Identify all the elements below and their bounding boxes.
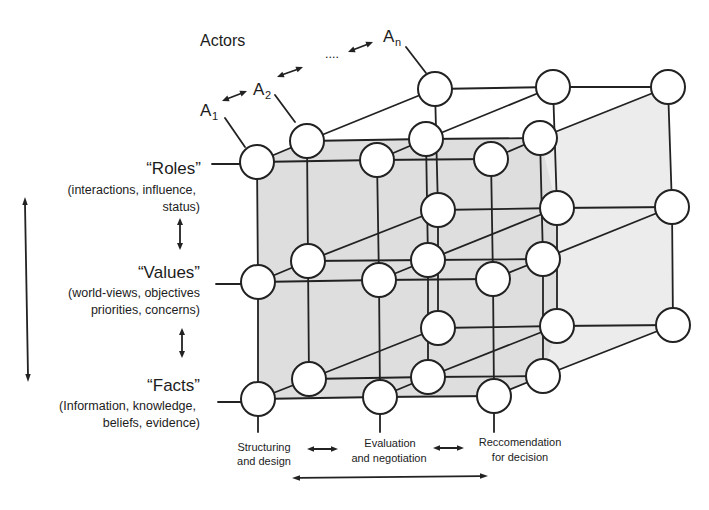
node-a1-values-structuring bbox=[241, 265, 275, 299]
arrow-ellipsis-an bbox=[348, 42, 373, 52]
node-a2-facts-structuring bbox=[292, 362, 326, 396]
node-an-values-structuring bbox=[421, 193, 455, 227]
node-a2-values-structuring bbox=[291, 244, 325, 278]
dimension-roles-desc-2: status) bbox=[162, 200, 200, 214]
actors-cube-diagram: Actors A 1 A 2 A n .... “Roles” (interac… bbox=[0, 0, 709, 510]
phase-structuring-line-1: Structuring bbox=[237, 441, 290, 453]
node-a2-values-evaluation bbox=[411, 243, 445, 277]
node-a1-facts-structuring bbox=[241, 382, 275, 416]
node-a2-values-recommendation bbox=[526, 242, 560, 276]
node-a2-roles-evaluation bbox=[409, 122, 443, 156]
arrow-structuring-evaluation bbox=[307, 446, 338, 451]
dimension-values-desc-2: priorities, concerns) bbox=[91, 303, 200, 317]
node-a1-roles-evaluation bbox=[360, 143, 394, 177]
phase-recommendation-line-2: for decision bbox=[492, 451, 548, 463]
node-a2-roles-recommendation bbox=[523, 121, 557, 155]
phase-evaluation-line-1: Evaluation bbox=[364, 437, 415, 449]
arrow-roles-values bbox=[177, 218, 183, 250]
node-an-roles-structuring bbox=[418, 72, 452, 106]
dimension-roles-desc-1: (interactions, influence, bbox=[67, 183, 196, 197]
node-a1-values-evaluation bbox=[362, 263, 396, 297]
node-a1-facts-recommendation bbox=[477, 379, 511, 413]
phase-recommendation-line-1: Reccomendation bbox=[479, 436, 562, 448]
node-a1-roles-structuring bbox=[240, 145, 274, 179]
node-a2-roles-structuring bbox=[290, 124, 324, 158]
arrow-a2-ellipsis bbox=[277, 67, 303, 78]
node-an-roles-recommendation bbox=[651, 70, 685, 104]
node-an-roles-evaluation bbox=[536, 70, 570, 104]
phase-ticks bbox=[258, 412, 494, 432]
node-an-facts-evaluation bbox=[540, 309, 574, 343]
dimension-facts-desc-2: beliefs, evidence) bbox=[103, 416, 200, 430]
node-a2-facts-recommendation bbox=[526, 359, 560, 393]
actor-a1-letter: A bbox=[200, 101, 212, 120]
actor-a2-subscript: 2 bbox=[265, 89, 271, 101]
node-an-facts-recommendation bbox=[656, 308, 690, 342]
arrow-a1-a2 bbox=[222, 91, 247, 101]
actor-an-subscript: n bbox=[395, 36, 401, 48]
arrow-evaluation-recommendation bbox=[433, 445, 464, 450]
actors-ellipsis: .... bbox=[325, 47, 339, 61]
actor-a2-letter: A bbox=[253, 80, 265, 99]
phase-evaluation-line-2: and negotiation bbox=[351, 452, 426, 464]
phase-structuring-line-2: and design bbox=[237, 455, 291, 467]
dimension-facts-label: “Facts” bbox=[147, 376, 200, 395]
node-an-values-evaluation bbox=[540, 191, 574, 225]
actor-a1-subscript: 1 bbox=[212, 110, 218, 122]
node-an-facts-structuring bbox=[421, 311, 455, 345]
node-a1-roles-recommendation bbox=[474, 142, 508, 176]
arrow-dimensions-span bbox=[22, 197, 30, 382]
node-a1-facts-evaluation bbox=[363, 380, 397, 414]
arrow-values-facts bbox=[179, 328, 185, 358]
node-a2-facts-evaluation bbox=[411, 360, 445, 394]
node-a1-values-recommendation bbox=[476, 262, 510, 296]
diagram-canvas: Actors A 1 A 2 A n .... “Roles” (interac… bbox=[0, 0, 709, 510]
dimension-values-label: “Values” bbox=[138, 263, 200, 282]
actor-an-letter: A bbox=[383, 27, 395, 46]
dimension-roles-label: “Roles” bbox=[146, 159, 201, 178]
dimension-values-desc-1: (world-views, objectives bbox=[68, 286, 200, 300]
node-an-values-recommendation bbox=[655, 190, 689, 224]
arrow-phases-span bbox=[292, 473, 488, 480]
actors-title: Actors bbox=[200, 32, 245, 49]
dimension-facts-desc-1: (Information, knowledge, bbox=[59, 399, 196, 413]
